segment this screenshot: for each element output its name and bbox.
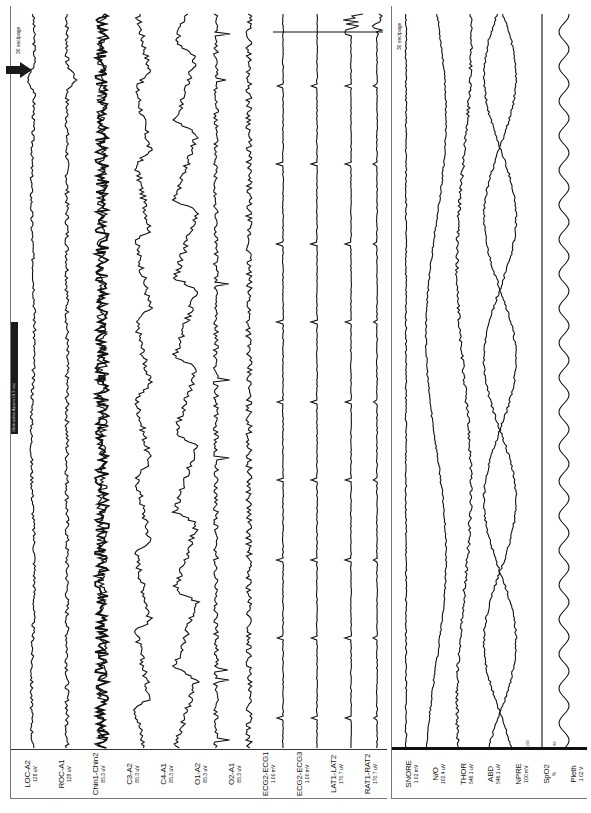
channel-gain: % [551, 764, 556, 784]
page-scale-label-right: 30 sec/page [396, 23, 402, 50]
eeg-trace-area[interactable]: 30 sec/page [11, 6, 387, 750]
channel-label-o2-a1[interactable]: O2-A185.3 uV [217, 754, 253, 794]
event-annotation-text: Obstructive Apnea 18.3 sec [11, 322, 16, 432]
channel-name: ECG2-ECG3 [296, 752, 304, 796]
channel-label-o1-a2[interactable]: O1-A285.3 uV [183, 754, 219, 794]
channel-gain: 1.00 mV [271, 752, 276, 796]
channel-label-ecg2-ecg3[interactable]: ECG2-ECG31.00 mV [285, 754, 321, 794]
channel-label-loc-a2[interactable]: LOC-A2128 uV [13, 754, 49, 794]
channel-gain: 85.3 uV [135, 763, 140, 785]
channel-gain: 1.00 mV [305, 752, 310, 796]
respiratory-panel: 30 sec/page SNORE1.02 mVN/O102.4 uVTHOR5… [391, 6, 587, 799]
channel-gain: 128 uV [33, 760, 38, 788]
channel-gain: 85.3 uV [203, 763, 208, 785]
channel-gain: 1.02 V [579, 765, 584, 782]
right-channel-labels: SNORE1.02 mVN/O102.4 uVTHOR546.1 uVABD54… [392, 747, 587, 798]
channel-label-lat1-lat2[interactable]: LAT1-LAT2170.7 uV [319, 754, 355, 794]
event-annotation-bar[interactable]: Obstructive Apnea 18.3 sec [11, 322, 18, 434]
spo2-scale-max: 100 [525, 740, 530, 747]
channel-name: Chin1-Chin2 [92, 753, 100, 795]
respiratory-waveforms [392, 6, 587, 750]
channel-label-ecg2-ecg1[interactable]: ECG2-ECG11.00 mV [251, 754, 287, 794]
channel-gain: 1.02 mV [414, 760, 419, 787]
channel-gain: 100 mV [524, 763, 529, 784]
channel-name: O2-A1 [228, 763, 236, 785]
channel-name: C4-A1 [160, 763, 168, 785]
channel-label-pleth[interactable]: Pleth1.02 V [559, 754, 591, 794]
respiratory-trace-area[interactable]: 30 sec/page [392, 6, 587, 750]
spo2-scale-min: 80 [552, 741, 557, 745]
eeg-montage-panel: 30 sec/page LOC-A2128 uVROC-A1128 uVChin… [10, 6, 387, 799]
channel-name: RAT1-RAT2 [364, 754, 372, 795]
channel-label-roc-a1[interactable]: ROC-A1128 uV [47, 754, 83, 794]
eeg-waveforms [11, 6, 387, 750]
channel-name: LOC-A2 [24, 760, 32, 788]
left-channel-labels: LOC-A2128 uVROC-A1128 uVChin1-Chin285.3 … [11, 749, 387, 798]
channel-label-chin1-chin2[interactable]: Chin1-Chin285.3 uV [81, 754, 117, 794]
channel-gain: 102.4 uV [442, 764, 447, 784]
channel-name: O1-A2 [194, 763, 202, 785]
channel-gain: 546.1 uV [497, 764, 502, 784]
channel-name: THOR [460, 763, 468, 785]
channel-gain: 128 uV [67, 759, 72, 788]
channel-label-rat1-rat2[interactable]: RAT1-RAT2170.7 uV [353, 754, 389, 794]
channel-gain: 85.3 uV [169, 763, 174, 785]
channel-name: ECG2-ECG1 [262, 752, 270, 796]
channel-label-c3-a2[interactable]: C3-A285.3 uV [115, 754, 151, 794]
channel-name: LAT1-LAT2 [330, 755, 338, 793]
arrow-marker-icon [6, 62, 32, 78]
page-scale-label: 30 sec/page [15, 27, 21, 54]
channel-name: C3-A2 [126, 763, 134, 785]
channel-gain: 85.3 uV [237, 763, 242, 785]
channel-gain: 546.1 uV [469, 763, 474, 785]
channel-name: SpO2 [542, 764, 550, 784]
channel-gain: 170.7 uV [339, 755, 344, 793]
channel-gain: 85.3 uV [101, 753, 106, 795]
channel-gain: 170.7 uV [373, 754, 378, 795]
channel-label-c4-a1[interactable]: C4-A185.3 uV [149, 754, 185, 794]
